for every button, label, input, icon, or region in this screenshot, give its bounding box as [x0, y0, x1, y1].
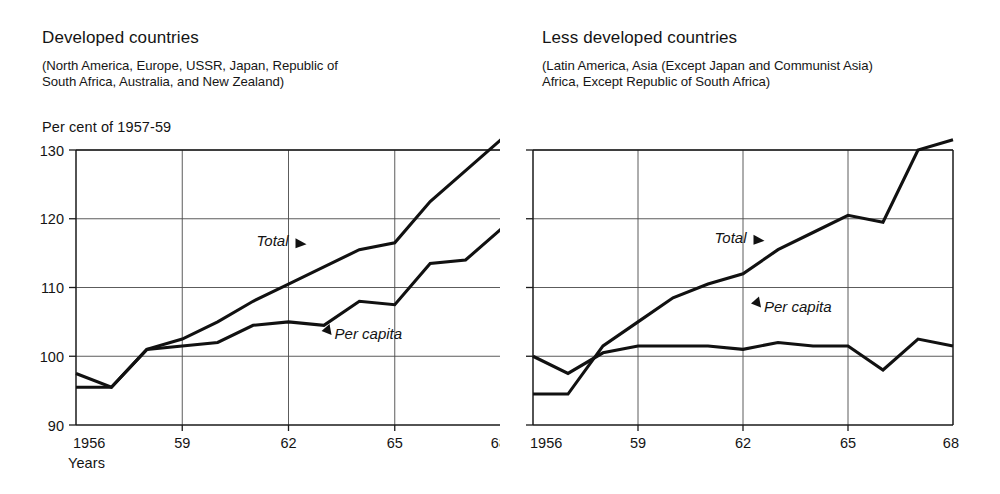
- x-tick-label: 59: [174, 435, 190, 451]
- x-tick-label: 1956: [73, 435, 105, 451]
- annotation-pointer-0: [296, 238, 307, 248]
- chart-developed-countries: 90100110120130195659626568TotalPer capit…: [0, 0, 500, 494]
- y-tick-label: 120: [40, 211, 64, 227]
- x-tick-label: 65: [387, 435, 403, 451]
- y-tick-label: 90: [48, 418, 64, 434]
- x-tick-label: 68: [943, 435, 959, 451]
- x-tick-label: 59: [630, 435, 646, 451]
- series-annotation-total: Total: [715, 229, 748, 246]
- annotation-pointer-1: [751, 297, 761, 308]
- chart-less-developed-countries: 195659626568TotalPer capita: [500, 0, 1000, 494]
- figure-root: Developed countries (North America, Euro…: [0, 0, 1000, 494]
- data-line-per-capita: [76, 229, 500, 387]
- series-annotation-total: Total: [257, 232, 290, 249]
- x-tick-label: 68: [491, 435, 500, 451]
- x-tick-label: 1956: [530, 435, 562, 451]
- x-tick-label: 62: [280, 435, 296, 451]
- panel-less-developed-countries: Less developed countries (Latin America,…: [500, 0, 1000, 494]
- panel-developed-countries: Developed countries (North America, Euro…: [0, 0, 500, 494]
- series-annotation-per-capita: Per capita: [764, 298, 832, 315]
- x-tick-label: 62: [735, 435, 751, 451]
- annotation-pointer-0: [754, 235, 765, 245]
- y-tick-label: 130: [40, 143, 64, 159]
- y-tick-label: 100: [40, 349, 64, 365]
- x-tick-label: 65: [840, 435, 856, 451]
- y-tick-label: 110: [41, 280, 64, 296]
- series-annotation-per-capita: Per capita: [335, 325, 403, 342]
